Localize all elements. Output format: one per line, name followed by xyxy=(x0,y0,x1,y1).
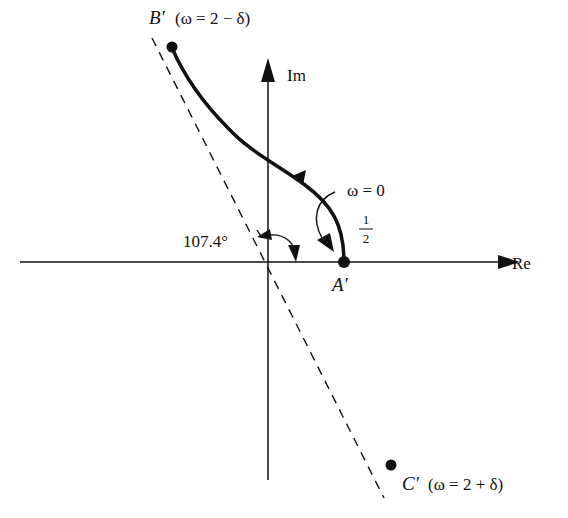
omega-zero-label: ω = 0 xyxy=(347,181,385,200)
real-axis-label: Re xyxy=(512,254,531,273)
nyquist-diagram: Re Im B′ (ω = 2 − δ) A′ C′ (ω = 2 + δ) ω… xyxy=(0,0,568,518)
point-a xyxy=(338,256,350,268)
imag-axis-label: Im xyxy=(287,66,306,85)
real-axis xyxy=(20,255,520,269)
imag-axis-arrow-icon xyxy=(261,58,275,82)
angle-label: 107.4° xyxy=(183,232,228,251)
point-a-label: A′ xyxy=(330,274,349,295)
angle-arc-end-arrow-icon xyxy=(288,245,300,262)
point-c-condition: (ω = 2 + δ) xyxy=(428,475,503,494)
half-denominator: 2 xyxy=(363,231,370,246)
point-b-condition: (ω = 2 − δ) xyxy=(175,9,250,28)
point-c xyxy=(386,460,397,471)
point-b xyxy=(167,42,178,53)
point-b-label: B′ xyxy=(149,7,166,28)
half-numerator: 1 xyxy=(363,212,370,227)
point-c-label: C′ xyxy=(402,473,420,494)
omega-zero-arrow-icon xyxy=(317,233,334,252)
